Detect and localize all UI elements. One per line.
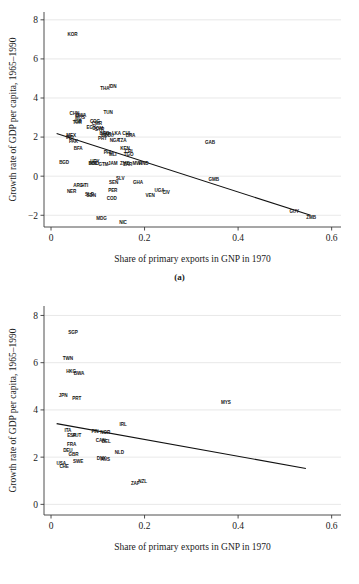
data-point-label: IDN: [109, 84, 117, 89]
y-axis-tick-label: 2: [33, 132, 38, 142]
scatter-plot-a: −20246800.20.40.6KORTHAIDNTUNCHNBWAMUSIS…: [0, 0, 359, 292]
y-axis-tick-label: 4: [33, 405, 38, 415]
y-axis-title: Growth rate of GDP per capita, 1965–1990: [8, 328, 18, 492]
y-axis-tick-label: 6: [33, 358, 38, 368]
data-point-label: AUT: [72, 433, 81, 438]
y-axis-tick-label: 2: [33, 453, 38, 463]
data-point-label: SWE: [73, 459, 83, 464]
data-point-label: KOR: [68, 32, 79, 37]
regression-fit-line: [57, 134, 311, 216]
data-point-label: VEN: [146, 193, 156, 198]
data-point-label: PER: [108, 188, 118, 193]
data-point-label: PRT: [72, 396, 81, 401]
data-point-label: FIN: [91, 429, 99, 434]
data-point-label: CIV: [162, 190, 170, 195]
y-axis-tick-label: −2: [28, 211, 38, 221]
x-axis-tick-label: 0.6: [326, 233, 338, 243]
data-point-label: NIC: [119, 220, 127, 225]
scatter-plot-b: 0246800.20.40.6SGPTWNHKGBWAJPNPRTMYSIRLI…: [0, 292, 359, 584]
y-axis-tick-label: 4: [33, 93, 38, 103]
data-point-label: TWN: [63, 356, 74, 361]
data-point-label: GMB: [209, 177, 220, 182]
data-point-label: IRL: [119, 422, 126, 427]
y-axis-tick-label: 0: [33, 172, 38, 182]
data-point-label: TUR: [73, 120, 83, 125]
x-axis-tick-label: 0.6: [326, 521, 338, 531]
data-point-label: HTI: [81, 183, 88, 188]
data-point-label: JPN: [59, 393, 68, 398]
data-point-label: GUY: [289, 209, 299, 214]
data-point-label: NER: [67, 189, 77, 194]
data-point-label: ZMB: [306, 215, 316, 220]
x-axis-tick-label: 0.2: [139, 233, 151, 243]
data-point-label: GHA: [133, 180, 144, 185]
chart-panel-b: 0246800.20.40.6SGPTWNHKGBWAJPNPRTMYSIRLI…: [0, 292, 359, 584]
chart-panel-a: −20246800.20.40.6KORTHAIDNTUNCHNBWAMUSIS…: [0, 0, 359, 292]
x-axis-tick-label: 0.4: [232, 233, 244, 243]
data-point-label: TZA: [118, 138, 127, 143]
data-point-label: PAK: [69, 139, 79, 144]
data-point-label: NLD: [115, 450, 125, 455]
data-point-label: SGP: [68, 330, 77, 335]
data-point-label: BEL: [102, 439, 111, 444]
data-point-label: MYS: [221, 400, 231, 405]
data-point-label: SDN: [87, 193, 97, 198]
data-point-label: NOR: [100, 430, 111, 435]
panel-caption-a: (a): [0, 272, 359, 282]
x-axis-title: Share of primary exports in GNP in 1970: [114, 542, 271, 552]
data-point-label: CHE: [59, 464, 68, 469]
y-axis-title: Growth rate of GDP per capita, 1965–1990: [8, 37, 18, 201]
figure-container: −20246800.20.40.6KORTHAIDNTUNCHNBWAMUSIS…: [0, 0, 359, 584]
x-axis-tick-label: 0.2: [139, 521, 151, 531]
data-point-label: TGO: [124, 152, 134, 157]
x-axis-tick-label: 0: [49, 233, 54, 243]
x-axis-title: Share of primary exports in GNP in 1970: [114, 254, 271, 264]
data-point-label: GBR: [69, 452, 80, 457]
data-point-label: GAB: [205, 140, 216, 145]
y-axis-tick-label: 0: [33, 500, 38, 510]
data-point-label: BGD: [59, 160, 70, 165]
data-point-label: LKA: [112, 131, 122, 136]
data-point-label: MLI: [109, 152, 117, 157]
data-point-label: AUS: [101, 457, 110, 462]
data-point-label: BFA: [74, 146, 84, 151]
x-axis-tick-label: 0.4: [232, 521, 244, 531]
data-point-label: HND: [139, 161, 149, 166]
data-point-label: JAM: [108, 161, 118, 166]
data-point-label: COD: [107, 196, 118, 201]
data-point-label: MDG: [96, 216, 107, 221]
data-point-label: SEN: [109, 180, 119, 185]
data-point-label: BWA: [74, 371, 85, 376]
y-axis-tick-label: 8: [33, 15, 38, 25]
data-point-label: BRA: [126, 133, 136, 138]
data-point-label: NZL: [138, 479, 147, 484]
data-point-label: FRA: [67, 442, 77, 447]
data-point-label: TUN: [103, 110, 113, 115]
data-point-label: PRY: [98, 136, 107, 141]
x-axis-tick-label: 0: [49, 521, 54, 531]
y-axis-tick-label: 8: [33, 311, 38, 321]
y-axis-tick-label: 6: [33, 54, 38, 64]
